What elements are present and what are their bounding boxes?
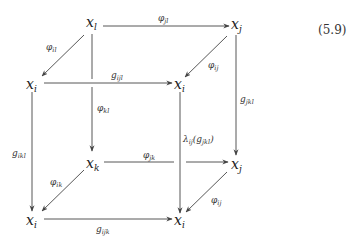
cube-diagram-edges	[0, 0, 359, 241]
label-g-ikl: gikl	[12, 148, 26, 161]
equation-number: (5.9)	[318, 23, 346, 37]
node-x-i-front-top-right: xi	[174, 77, 185, 96]
node-x-i-front-top-left: xi	[26, 77, 37, 96]
label-phi-kl: φkl	[97, 103, 109, 116]
label-g-jkl: gjkl	[240, 94, 254, 107]
node-x-i-front-bottom-left: xi	[26, 213, 37, 232]
label-g-ijl: gijl	[111, 70, 123, 83]
label-phi-ij-bottom: φij	[211, 195, 221, 208]
node-x-i-front-bottom-right: xi	[174, 213, 185, 232]
label-phi-ij-top: φij	[208, 60, 218, 73]
label-phi-jl: φjl	[158, 13, 168, 26]
label-g-ijk: gijk	[96, 224, 110, 237]
node-x-j-bottom: xj	[231, 157, 242, 176]
arrow-phi-ij-top	[185, 36, 227, 77]
node-x-j-top: xj	[231, 17, 242, 36]
label-phi-il: φil	[46, 42, 56, 55]
label-lambda: λij(gjkl)	[183, 134, 214, 147]
node-x-k: xk	[86, 156, 99, 175]
arrow-phi-ik	[42, 170, 84, 211]
node-x-l: xl	[86, 15, 97, 34]
label-phi-ik: φik	[50, 177, 62, 190]
label-phi-jk: φjk	[143, 150, 155, 163]
